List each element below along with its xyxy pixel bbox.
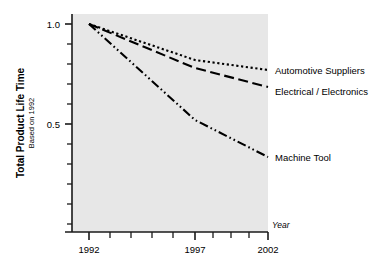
chart-figure: 1.0 0.5 1992 1997 2002 Year Total Produc… [0,0,374,260]
x-tick-label-1997: 1997 [184,244,205,255]
x-axis-minor-ticks [110,232,249,238]
line-chart-svg: 1.0 0.5 1992 1997 2002 Year Total Produc… [0,0,374,260]
y-axis-major-ticks [65,24,72,124]
series-label-automotive-suppliers: Automotive Suppliers [275,65,365,76]
plot-area-background [72,14,268,232]
y-tick-label-1.0: 1.0 [47,19,60,30]
x-tick-label-2002: 2002 [257,244,278,255]
y-tick-label-0.5: 0.5 [47,119,60,130]
x-axis-major-ticks [89,232,268,240]
x-tick-label-1992: 1992 [78,244,99,255]
series-label-machine-tool: Machine Tool [275,152,331,163]
y-axis-title: Total Product Life Time [15,67,26,178]
y-axis-subtitle: Based on 1992 [27,98,36,148]
x-axis-caption: Year [272,220,291,230]
series-label-electrical-electronics: Electrical / Electronics [275,86,368,97]
